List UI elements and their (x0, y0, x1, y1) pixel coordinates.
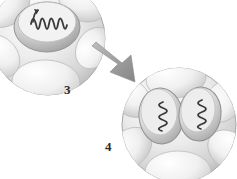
cell-division-figure: 3 4 (0, 0, 237, 179)
figure-canvas (0, 0, 237, 179)
nucleus-highlight (18, 2, 76, 42)
stage-label-3: 3 (64, 83, 71, 96)
stage-label-4: 4 (105, 140, 112, 153)
